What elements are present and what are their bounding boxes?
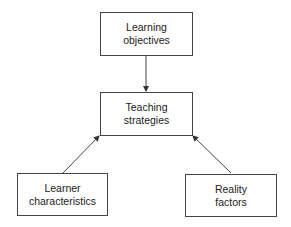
arrow-learner-to-strategies [63,136,99,173]
node-learner-characteristics: Learner characteristics [17,173,108,216]
node-label: Teaching strategies [124,101,170,127]
node-learning-objectives: Learning objectives [100,12,193,56]
node-label: Learner characteristics [29,182,96,208]
arrow-reality-to-strategies [193,136,231,173]
node-label: Learning objectives [123,21,170,47]
node-label: Reality factors [215,183,247,209]
node-teaching-strategies: Teaching strategies [100,92,193,136]
node-reality-factors: Reality factors [185,174,277,217]
